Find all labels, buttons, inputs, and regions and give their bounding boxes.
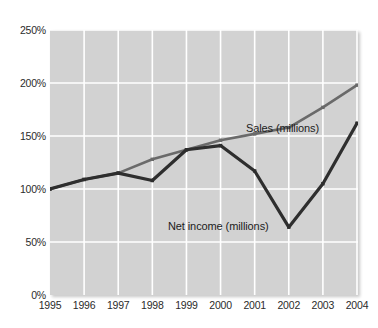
plot-area: Sales (millions) Net income (millions) xyxy=(50,30,358,295)
series-marker xyxy=(219,144,222,147)
series-marker xyxy=(321,182,324,185)
y-axis-tick-label: 150% xyxy=(2,131,46,141)
series-marker xyxy=(82,178,85,181)
gridlines xyxy=(50,30,358,295)
series-marker xyxy=(185,148,188,151)
series-line-1 xyxy=(50,123,357,227)
series-marker xyxy=(151,158,154,161)
series-label-sales: Sales (millions) xyxy=(246,122,319,134)
series-marker xyxy=(50,187,52,190)
y-axis-tick-label: 100% xyxy=(2,184,46,194)
x-axis: 1995199619971998199920002001200220032004 xyxy=(50,299,358,319)
series-label-net-income: Net income (millions) xyxy=(168,220,269,232)
y-axis-tick-label: 250% xyxy=(2,25,46,35)
series-marker xyxy=(117,171,120,174)
line-chart-figure: 0%50%100%150%200%250% Sales (millions) N… xyxy=(0,0,378,328)
series-marker xyxy=(321,106,324,109)
series-marker xyxy=(151,179,154,182)
x-axis-tick-label: 2004 xyxy=(337,299,377,311)
series-marker xyxy=(355,122,358,125)
y-axis: 0%50%100%150%200%250% xyxy=(0,0,46,328)
plot-svg xyxy=(50,30,358,295)
series-marker xyxy=(219,139,222,142)
y-axis-tick-label: 50% xyxy=(2,237,46,247)
series-marker xyxy=(287,225,290,228)
series-marker xyxy=(253,169,256,172)
series-line-0 xyxy=(50,85,357,189)
series-marker xyxy=(355,83,358,86)
y-axis-tick-label: 200% xyxy=(2,78,46,88)
